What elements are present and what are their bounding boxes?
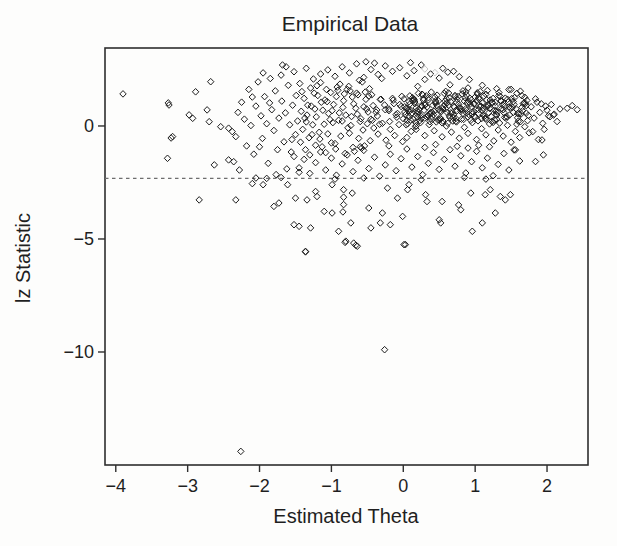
x-axis-ticks: −4−3−2−1012 — [106, 465, 553, 496]
plot-border — [105, 48, 588, 465]
x-tick-label: −1 — [321, 476, 342, 496]
y-tick-label: −10 — [63, 342, 94, 362]
x-tick-label: 1 — [470, 476, 480, 496]
x-tick-label: −4 — [106, 476, 127, 496]
x-tick-label: 0 — [398, 476, 408, 496]
x-tick-label: 2 — [542, 476, 552, 496]
y-axis-ticks: 0−5−10 — [63, 116, 105, 362]
y-tick-label: 0 — [84, 116, 94, 136]
scatter-figure: Empirical Data −4−3−2−1012 0−5−10 Estima… — [0, 0, 617, 546]
x-tick-label: −2 — [249, 476, 270, 496]
data-points — [120, 59, 581, 455]
y-axis-label: lz Statistic — [12, 213, 34, 303]
x-axis-label: Estimated Theta — [273, 505, 419, 527]
chart-title: Empirical Data — [282, 12, 419, 35]
y-tick-label: −5 — [73, 229, 94, 249]
scatter-plot-canvas: Empirical Data −4−3−2−1012 0−5−10 Estima… — [0, 0, 617, 546]
x-tick-label: −3 — [177, 476, 198, 496]
